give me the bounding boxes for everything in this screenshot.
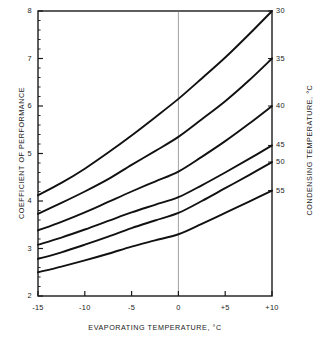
y-tick-label-6: 6 <box>16 101 32 110</box>
x-tick-label--5: -5 <box>117 303 147 312</box>
y-tick-label-5: 5 <box>16 149 32 158</box>
curve-35C <box>38 59 272 214</box>
axis-ticks <box>38 11 272 296</box>
x-tick-label-5: +5 <box>210 303 240 312</box>
curve-label-40: 40 <box>276 101 296 110</box>
y-tick-label-4: 4 <box>16 196 32 205</box>
secondary-y-axis-title: CONDENSING TEMPERATURE, °C <box>302 30 316 270</box>
x-tick-label--10: -10 <box>70 303 100 312</box>
data-curves <box>38 11 272 272</box>
curve-label-30: 30 <box>276 6 296 15</box>
y-tick-label-8: 8 <box>16 6 32 15</box>
y-tick-label-7: 7 <box>16 54 32 63</box>
x-tick-label--15: -15 <box>23 303 53 312</box>
plot-frame <box>38 11 272 296</box>
curve-40C <box>38 106 272 230</box>
curve-30C <box>38 11 272 195</box>
y-tick-label-3: 3 <box>16 244 32 253</box>
curve-label-45: 45 <box>276 140 296 149</box>
y-tick-label-2: 2 <box>16 291 32 300</box>
chart-plot-area <box>0 0 316 342</box>
chart-figure: COEFFICIENT OF PERFORMANCE CONDENSING TE… <box>0 0 316 342</box>
x-tick-label-10: +10 <box>257 303 287 312</box>
curve-label-35: 35 <box>276 54 296 63</box>
plot-frame-rect <box>38 11 272 296</box>
x-tick-label-0: 0 <box>163 303 193 312</box>
curve-label-50: 50 <box>276 157 296 166</box>
x-axis-title: EVAPORATING TEMPERATURE, °C <box>38 323 272 332</box>
curve-label-55: 55 <box>276 186 296 195</box>
curve-45C <box>38 145 272 244</box>
curve-55C <box>38 191 272 273</box>
